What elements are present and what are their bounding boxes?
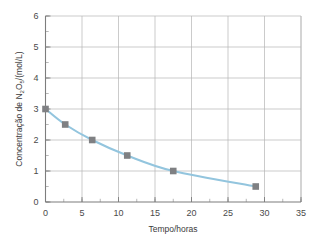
chart-figure: 05101520253035 0123456 Tempo/horas Conce… [0, 0, 323, 242]
data-point-marker [42, 106, 49, 113]
x-tick-label: 5 [79, 208, 84, 218]
data-point-marker [170, 168, 177, 175]
x-tick-label: 30 [259, 208, 269, 218]
y-tick-label: 0 [33, 197, 38, 207]
data-point-marker [252, 183, 259, 190]
y-axis-title-prefix: Concentração de N [14, 93, 24, 166]
y-axis-title: Concentração de N2O5/(mol/L) [14, 51, 25, 167]
y-tick-label: 2 [33, 135, 38, 145]
x-tick-label: 0 [43, 208, 48, 218]
x-tick-label: 35 [296, 208, 306, 218]
x-axis-title: Tempo/horas [148, 224, 197, 234]
data-point-marker [62, 121, 69, 128]
concentration-vs-time-chart: 05101520253035 0123456 Tempo/horas Conce… [0, 0, 323, 242]
y-tick-label: 6 [33, 11, 38, 21]
y-tick-label: 1 [33, 166, 38, 176]
x-tick-label: 20 [186, 208, 196, 218]
x-tick-label: 25 [223, 208, 233, 218]
chart-background [0, 0, 323, 242]
data-point-marker [89, 137, 96, 144]
y-tick-label: 4 [33, 73, 38, 83]
x-tick-label: 15 [150, 208, 160, 218]
y-tick-label: 3 [33, 104, 38, 114]
y-axis-title-units: /(mol/L) [14, 51, 24, 80]
y-tick-label: 5 [33, 42, 38, 52]
svg-text:Concentração de N2O5/(mol/L): Concentração de N2O5/(mol/L) [14, 51, 25, 167]
x-tick-label: 10 [113, 208, 123, 218]
data-point-marker [124, 152, 131, 159]
